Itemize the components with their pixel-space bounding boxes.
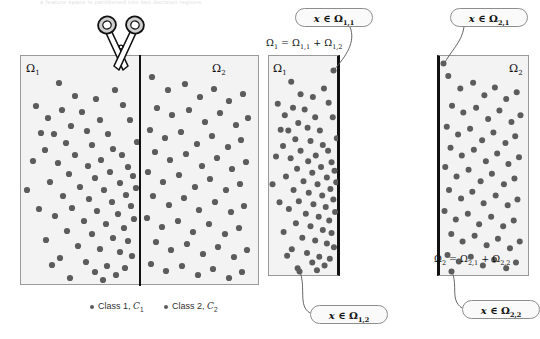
class-symbol: C — [207, 301, 214, 311]
omega-subscript: 2,2 — [510, 311, 521, 319]
omega-subscript: 1,2 — [358, 316, 369, 324]
legend-text: Class 2, — [172, 301, 207, 311]
legend-item-class-2: Class 2, C2 — [164, 301, 218, 313]
callout-x-in-omega-1-1[interactable]: x ∈ Ω1,1 — [295, 8, 373, 27]
legend-dot-icon — [164, 305, 168, 309]
class-subscript: 1 — [140, 306, 144, 313]
legend-text: Class 1, — [98, 301, 133, 311]
membership-symbol: ∈ Ω — [320, 13, 343, 24]
legend: Class 1, C1 Class 2, C2 — [90, 301, 236, 313]
callout-x-in-omega-2-1[interactable]: x ∈ Ω2,1 — [450, 8, 528, 27]
class-subscript: 2 — [214, 306, 218, 313]
legend-item-class-1: Class 1, C1 — [90, 301, 144, 313]
callout-x-in-omega-2-2[interactable]: x ∈ Ω2,2 — [462, 300, 540, 319]
callout-x-in-omega-1-2[interactable]: x ∈ Ω1,2 — [310, 305, 388, 324]
legend-label-class-1: Class 1, C1 — [98, 301, 144, 311]
legend-dot-icon — [90, 305, 94, 309]
class-symbol: C — [133, 301, 140, 311]
membership-symbol: ∈ Ω — [335, 310, 358, 321]
membership-symbol: ∈ Ω — [487, 305, 510, 316]
legend-label-class-2: Class 2, C2 — [172, 301, 218, 311]
omega-subscript: 1,1 — [343, 19, 354, 27]
membership-symbol: ∈ Ω — [475, 13, 498, 24]
omega-subscript: 2,1 — [498, 19, 509, 27]
